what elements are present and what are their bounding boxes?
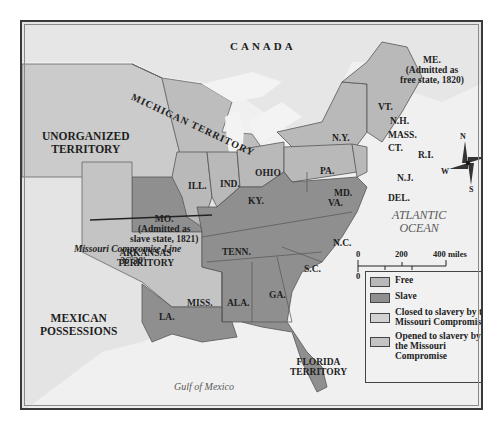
label-mo-line1: MO.: [130, 214, 198, 224]
label-atlantic-ocean: ATLANTIC OCEAN: [392, 209, 446, 235]
label-maine-line3: free state, 1820): [400, 75, 464, 85]
label-florida-line2: TERRITORY: [290, 367, 347, 377]
label-sc: S.C.: [304, 264, 321, 274]
label-nc: N.C.: [333, 238, 351, 248]
scale-miles-0: 0: [356, 249, 360, 259]
label-ny: N.Y.: [332, 133, 350, 143]
legend-swatch-opened: [370, 337, 390, 347]
label-vt: VT.: [378, 102, 393, 112]
legend-label-closed: Closed to slavery by the Missouri Compro…: [395, 307, 483, 327]
legend-label-opened: Opened to slavery by the Missouri Compro…: [395, 331, 483, 361]
label-florida-line1: FLORIDA: [290, 357, 347, 367]
label-mo-line2: (Admitted as: [130, 224, 198, 234]
legend-label-free: Free: [395, 275, 413, 285]
label-gulf-of-mexico: Gulf of Mexico: [174, 382, 234, 392]
label-canada: CANADA: [230, 40, 296, 53]
label-missouri-compromise-line: Missouri Compromise Line: [74, 244, 181, 254]
label-unorganized-line2: TERRITORY: [42, 143, 130, 156]
label-florida-territory: FLORIDA TERRITORY: [290, 357, 347, 377]
label-maine-line2: (Admitted as: [400, 65, 464, 75]
legend-item-free: Free: [370, 275, 483, 287]
compass-w: W: [441, 167, 449, 176]
map-legend: Free Slave Closed to slavery by the Miss…: [365, 271, 483, 383]
label-md: MD.: [334, 188, 352, 198]
label-missouri: MO. (Admitted as slave state, 1821): [130, 214, 198, 244]
label-mass: MASS.: [388, 130, 417, 140]
legend-item-closed: Closed to slavery by the Missouri Compro…: [370, 307, 483, 327]
scale-miles-200: 200: [395, 249, 408, 259]
label-tenn: TENN.: [222, 247, 251, 257]
label-va: VA.: [328, 198, 343, 208]
label-unorganized-line1: UNORGANIZED: [42, 130, 130, 143]
label-ala: ALA.: [227, 298, 249, 308]
label-mexican-line1: MEXICAN: [40, 312, 117, 325]
label-miss: MISS.: [187, 298, 213, 308]
legend-swatch-free: [370, 277, 390, 287]
compass-rose: N S E W: [443, 135, 483, 191]
label-mexican-possessions: MEXICAN POSSESSIONS: [40, 312, 117, 338]
label-la: LA.: [159, 312, 175, 322]
label-ind: IND.: [220, 179, 240, 189]
compass-n: N: [460, 132, 466, 141]
label-atlantic-line2: OCEAN: [392, 222, 446, 235]
label-unorganized-territory: UNORGANIZED TERRITORY: [42, 130, 130, 156]
label-ga: GA.: [269, 290, 286, 300]
label-maine: ME. (Admitted as free state, 1820): [400, 55, 464, 85]
compass-star-icon: [443, 135, 483, 191]
label-mexican-line2: POSSESSIONS: [40, 325, 117, 338]
label-maine-line1: ME.: [400, 55, 464, 65]
label-ky: KY.: [248, 196, 264, 206]
legend-item-opened: Opened to slavery by the Missouri Compro…: [370, 331, 483, 361]
label-ohio: OHIO: [255, 168, 281, 178]
scale-miles-400: 400 miles: [433, 249, 467, 259]
legend-item-slave: Slave: [370, 291, 483, 303]
legend-swatch-slave: [370, 293, 390, 303]
label-mo-line3: slave state, 1821): [130, 234, 198, 244]
label-ill: ILL.: [188, 181, 207, 191]
label-pa: PA.: [320, 166, 334, 176]
label-del: DEL.: [388, 193, 410, 203]
legend-label-slave: Slave: [395, 291, 417, 301]
label-latitude: 36°30′: [120, 256, 145, 266]
label-nj: N.J.: [397, 173, 413, 183]
map-frame: CANADA UNORGANIZED TERRITORY MICHIGAN TE…: [20, 20, 483, 410]
label-nh: N.H.: [390, 116, 409, 126]
compass-s: S: [469, 185, 473, 194]
label-ri: R.I.: [418, 150, 433, 160]
legend-swatch-closed: [370, 313, 390, 323]
label-ct: CT.: [388, 143, 403, 153]
scale-km-0: 0: [356, 271, 360, 281]
